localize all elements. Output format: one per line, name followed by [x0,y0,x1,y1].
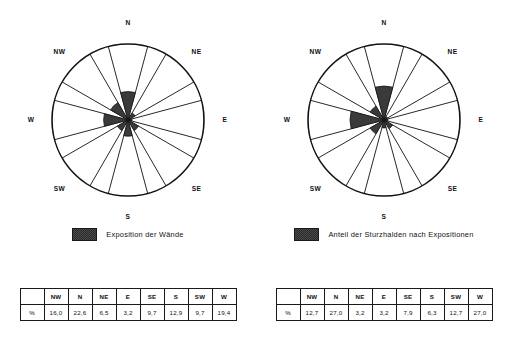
direction-label-e: E [479,116,484,123]
table-cell-ne: 6,5 [92,305,116,321]
rose-svg-left: NNEESESSWWNW [20,12,236,228]
rose-svg-right: NNEESESSWWNW [276,12,492,228]
direction-label-ne: NE [192,48,202,55]
table-header-nw: NW [300,289,324,305]
table-header-ne: NE [92,289,116,305]
legend-label-waende: Exposition der Wände [106,230,183,239]
direction-label-n: N [381,19,386,26]
table-cell-w: 19,4 [212,305,236,321]
direction-label-n: N [125,19,130,26]
table-cell-se: 9,7 [140,305,164,321]
table-header-s: S [164,289,188,305]
table-header-s: S [420,289,444,305]
table-cell-n: 22,6 [68,305,92,321]
direction-label-w: W [28,116,35,123]
table-header-n: N [324,289,348,305]
table-cell-sw: 12,7 [444,305,468,321]
direction-label-s: S [382,213,387,220]
table-header-nw: NW [44,289,68,305]
table-header-w: W [212,289,236,305]
legend-swatch-icon [294,228,319,241]
table-row: % 16,0 22,6 6,5 3,2 9,7 12,9 9,7 19,4 [20,305,236,321]
table-header-n: N [68,289,92,305]
table-cell-se: 7,9 [396,305,420,321]
table-header-sw: SW [444,289,468,305]
table-cell-ne: 3,2 [348,305,372,321]
table-header-row: NW N NE E SE S SW W [20,289,236,305]
direction-label-se: SE [448,185,458,192]
legend-right: Anteil der Sturzhalden nach Expositionen [256,228,512,241]
direction-label-se: SE [192,185,202,192]
table-row-label: % [276,305,300,321]
legend-left: Exposition der Wände [0,228,256,241]
table-corner-cell [20,289,44,305]
direction-label-sw: SW [54,185,66,192]
direction-label-w: W [284,116,291,123]
legend-label-sturzhalden: Anteil der Sturzhalden nach Expositionen [328,230,473,239]
table-header-sw: SW [188,289,212,305]
direction-label-sw: SW [310,185,322,192]
table-wrap-left: NW N NE E SE S SW W % 16,0 22,6 6,5 3,2 [0,288,256,321]
data-table-waende: NW N NE E SE S SW W % 16,0 22,6 6,5 3,2 [20,288,237,321]
table-header-e: E [116,289,140,305]
table-cell-s: 12,9 [164,305,188,321]
table-cell-n: 27,0 [324,305,348,321]
direction-label-e: E [223,116,228,123]
table-header-row: NW N NE E SE S SW W [276,289,492,305]
table-header-se: SE [396,289,420,305]
table-cell-sw: 9,7 [188,305,212,321]
table-cell-e: 3,2 [116,305,140,321]
table-cell-e: 3,2 [372,305,396,321]
rose-panel-left: NNEESESSWWNW Exposition der Wände NW N N… [0,0,256,354]
rose-panel-right: NNEESESSWWNW Anteil der Sturzhalden nach… [256,0,512,354]
table-header-ne: NE [348,289,372,305]
data-table-sturzhalden: NW N NE E SE S SW W % 12,7 27,0 3,2 3,2 [276,288,493,321]
table-cell-nw: 12,7 [300,305,324,321]
table-cell-nw: 16,0 [44,305,68,321]
table-row-label: % [20,305,44,321]
table-corner-cell [276,289,300,305]
direction-label-nw: NW [54,48,66,55]
direction-label-nw: NW [310,48,322,55]
rose-diagram-waende: NNEESESSWWNW [20,12,236,228]
rose-diagram-sturzhalden: NNEESESSWWNW [276,12,492,228]
table-header-w: W [468,289,492,305]
direction-label-s: S [126,213,131,220]
table-header-e: E [372,289,396,305]
legend-swatch-icon [72,228,97,241]
table-row: % 12,7 27,0 3,2 3,2 7,9 6,3 12,7 27,0 [276,305,492,321]
table-header-se: SE [140,289,164,305]
table-cell-s: 6,3 [420,305,444,321]
table-wrap-right: NW N NE E SE S SW W % 12,7 27,0 3,2 3,2 [256,288,512,321]
direction-label-ne: NE [448,48,458,55]
table-cell-w: 27,0 [468,305,492,321]
